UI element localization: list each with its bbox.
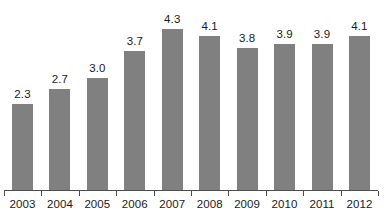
- plot-area: 2.32.73.03.74.34.13.83.93.94.1: [0, 0, 384, 191]
- x-axis-tick-label: 2006: [116, 196, 153, 214]
- bar-group: 2.3: [4, 0, 41, 191]
- bar-value-label: 4.3: [164, 13, 180, 26]
- bar-group: 3.9: [266, 0, 303, 191]
- bar-group: 3.0: [79, 0, 116, 191]
- bar-value-label: 2.3: [14, 88, 30, 101]
- bar-value-label: 4.1: [202, 20, 218, 33]
- bar-group: 4.3: [154, 0, 191, 191]
- x-axis-tick-label: 2012: [341, 196, 378, 214]
- bars-container: 2.32.73.03.74.34.13.83.93.94.1: [4, 0, 378, 191]
- bar: [162, 29, 183, 191]
- x-axis-tick-label: 2008: [191, 196, 228, 214]
- bar-group: 4.1: [341, 0, 378, 191]
- bar: [312, 44, 333, 191]
- bar: [87, 78, 108, 191]
- bar: [274, 44, 295, 191]
- bar: [237, 48, 258, 191]
- bar-group: 3.8: [229, 0, 266, 191]
- bar-group: 3.9: [304, 0, 341, 191]
- bar: [12, 104, 33, 191]
- x-axis-tick-label: 2011: [304, 196, 341, 214]
- bar-value-label: 3.9: [314, 28, 330, 41]
- x-axis-tick-label: 2007: [154, 196, 191, 214]
- bar-value-label: 3.8: [239, 32, 255, 45]
- x-axis-tick-label: 2005: [79, 196, 116, 214]
- bar-value-label: 3.7: [127, 35, 143, 48]
- bar-value-label: 3.0: [89, 62, 105, 75]
- bar: [199, 36, 220, 191]
- x-axis-tick-label: 2004: [41, 196, 78, 214]
- bar: [124, 51, 145, 191]
- x-axis-tick-label: 2010: [266, 196, 303, 214]
- bar-group: 2.7: [41, 0, 78, 191]
- bar-chart: 2.32.73.03.74.34.13.83.93.94.1 200320042…: [0, 0, 384, 214]
- x-axis-tick-label: 2009: [229, 196, 266, 214]
- bar-group: 3.7: [116, 0, 153, 191]
- bar-value-label: 3.9: [276, 28, 292, 41]
- bar-value-label: 2.7: [52, 73, 68, 86]
- bar: [49, 89, 70, 191]
- bar: [349, 36, 370, 191]
- bar-value-label: 4.1: [351, 20, 367, 33]
- axis-tick-mark: [378, 191, 379, 196]
- x-axis-labels: 2003200420052006200720082009201020112012: [4, 196, 378, 214]
- bar-group: 4.1: [191, 0, 228, 191]
- x-axis-tick-label: 2003: [4, 196, 41, 214]
